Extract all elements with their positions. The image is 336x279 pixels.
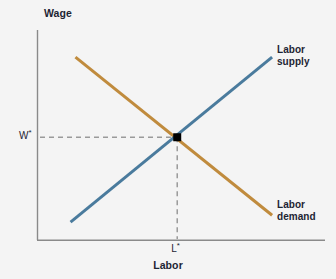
series-label-labor-demand-line1: Labor: [277, 199, 305, 210]
x-axis-tick-label-equilibrium-labor: L*: [171, 243, 180, 254]
labor-market-chart: Wage Labor Laborsupply Labordemand W* L*: [0, 0, 336, 279]
series-label-labor-supply-line1: Labor: [277, 44, 305, 55]
labor-star-superscript: *: [177, 241, 180, 250]
series-label-labor-demand: Labordemand: [277, 199, 316, 223]
series-label-labor-supply: Laborsupply: [277, 44, 310, 68]
labor-supply-curve[interactable]: [71, 57, 273, 222]
y-axis-title: Wage: [44, 7, 72, 19]
wage-star-superscript: *: [28, 127, 31, 136]
chart-canvas: [0, 0, 336, 279]
series-label-labor-supply-line2: supply: [277, 56, 310, 67]
y-axis-tick-label-equilibrium-wage: W*: [19, 130, 32, 141]
x-axis-title: Labor: [0, 259, 336, 271]
equilibrium-point-marker[interactable]: [173, 133, 181, 141]
series-label-labor-demand-line2: demand: [277, 211, 316, 222]
